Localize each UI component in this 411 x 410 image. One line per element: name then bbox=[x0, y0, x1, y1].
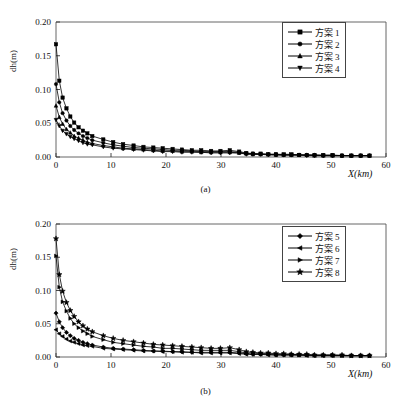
series-marker bbox=[54, 82, 57, 85]
triangle-right-marker-icon bbox=[287, 254, 313, 266]
series-marker bbox=[81, 129, 84, 132]
series-marker bbox=[218, 346, 223, 351]
y-tick-label: 0.15 bbox=[35, 51, 51, 61]
x-tick-label: 60 bbox=[382, 360, 392, 370]
series-marker bbox=[91, 134, 94, 137]
series-marker bbox=[102, 338, 106, 342]
series-marker bbox=[86, 132, 89, 135]
series-marker bbox=[69, 115, 72, 118]
series-marker bbox=[102, 138, 105, 141]
panel-caption-a: (a) bbox=[0, 184, 411, 194]
series-marker bbox=[189, 344, 194, 349]
triangle-up-marker-icon bbox=[287, 50, 313, 62]
legend-item: 方案8 bbox=[287, 266, 340, 278]
series-marker bbox=[54, 311, 58, 315]
series-marker bbox=[65, 133, 69, 137]
series-marker bbox=[69, 317, 73, 321]
series-marker bbox=[68, 339, 72, 343]
series-marker bbox=[72, 121, 75, 124]
x-tick-label: 50 bbox=[327, 160, 337, 170]
y-tick-label: 0.15 bbox=[35, 252, 51, 262]
series-marker bbox=[91, 335, 95, 339]
figure-container: 0.000.050.100.150.200102030405060 dh(m) … bbox=[0, 0, 411, 410]
series-marker bbox=[120, 338, 125, 343]
legend-number: 3 bbox=[333, 52, 340, 62]
series-marker bbox=[339, 352, 344, 357]
series-marker bbox=[170, 343, 175, 348]
y-tick-label: 0.00 bbox=[35, 352, 51, 362]
x-tick-label: 30 bbox=[217, 360, 227, 370]
circle-marker-icon bbox=[287, 38, 313, 50]
y-axis-label-b: dh(m) bbox=[8, 248, 22, 270]
x-tick-label: 10 bbox=[107, 160, 117, 170]
legend-label: 方案8 bbox=[313, 266, 340, 279]
legend-number: 6 bbox=[333, 244, 340, 254]
series-marker bbox=[53, 236, 58, 241]
x-tick-label: 60 bbox=[382, 160, 392, 170]
chart-panel-b: 0.000.050.100.150.200102030405060 dh(m) … bbox=[0, 200, 411, 410]
x-tick-label: 20 bbox=[162, 360, 172, 370]
y-tick-label: 0.10 bbox=[35, 85, 51, 95]
x-tick-label: 50 bbox=[327, 360, 337, 370]
chart-panel-a: 0.000.050.100.150.200102030405060 dh(m) … bbox=[0, 0, 411, 200]
y-tick-label: 0.05 bbox=[35, 319, 51, 329]
series-marker bbox=[58, 79, 61, 82]
legend-number: 1 bbox=[333, 28, 340, 38]
series-marker bbox=[61, 122, 65, 126]
series-marker bbox=[77, 126, 80, 129]
series-marker bbox=[81, 134, 84, 137]
legend-item: 方案2 bbox=[287, 38, 340, 50]
series-marker bbox=[65, 107, 68, 110]
series-marker bbox=[312, 352, 317, 357]
series-marker bbox=[101, 333, 106, 338]
x-tick-label: 40 bbox=[272, 160, 282, 170]
series-marker bbox=[61, 96, 64, 99]
series-marker bbox=[54, 104, 58, 108]
series-marker bbox=[65, 119, 68, 122]
y-tick-label: 0.05 bbox=[35, 118, 51, 128]
series-marker bbox=[112, 341, 116, 345]
triangle-down-marker-icon bbox=[287, 62, 313, 74]
triangle-left-marker-icon bbox=[287, 242, 313, 254]
y-tick-label: 0.00 bbox=[35, 152, 51, 162]
legend-number: 4 bbox=[333, 64, 340, 74]
series-marker bbox=[90, 329, 95, 334]
legend-item: 方案5 bbox=[287, 230, 340, 242]
series-marker bbox=[68, 308, 73, 313]
series-marker bbox=[77, 132, 80, 135]
x-tick-label: 20 bbox=[162, 160, 172, 170]
series-marker bbox=[54, 118, 58, 122]
legend-label: 方案4 bbox=[313, 62, 340, 75]
series-marker bbox=[85, 326, 90, 331]
legend-item: 方案3 bbox=[287, 50, 340, 62]
series-marker bbox=[72, 341, 76, 345]
series-marker bbox=[296, 352, 301, 357]
series-marker bbox=[54, 43, 57, 46]
y-axis-label-a: dh(m) bbox=[8, 50, 22, 72]
series-marker bbox=[69, 124, 72, 127]
diamond-marker-icon bbox=[287, 230, 313, 242]
series-marker bbox=[57, 320, 61, 324]
series-marker bbox=[58, 101, 61, 104]
series-marker bbox=[71, 314, 76, 319]
series-marker bbox=[72, 128, 75, 131]
series-marker bbox=[86, 136, 89, 139]
series-marker bbox=[86, 332, 90, 336]
y-tick-label: 0.20 bbox=[35, 219, 51, 229]
legend-a: 方案1方案2方案3方案4 bbox=[282, 22, 346, 78]
legend-number: 7 bbox=[333, 256, 340, 266]
x-axis-label-a: X(km) bbox=[348, 168, 372, 179]
legend-item: 方案7 bbox=[287, 254, 340, 266]
star-marker-icon bbox=[287, 266, 313, 278]
series-marker bbox=[289, 352, 294, 357]
legend-item: 方案1 bbox=[287, 26, 340, 38]
series-marker bbox=[179, 344, 184, 349]
series-marker bbox=[61, 111, 64, 114]
x-axis-label-b: X(km) bbox=[348, 368, 372, 379]
legend-number: 2 bbox=[333, 40, 340, 50]
x-tick-label: 40 bbox=[272, 360, 282, 370]
series-marker bbox=[141, 340, 146, 345]
series-marker bbox=[111, 336, 116, 341]
series-marker bbox=[160, 342, 165, 347]
y-tick-label: 0.10 bbox=[35, 286, 51, 296]
